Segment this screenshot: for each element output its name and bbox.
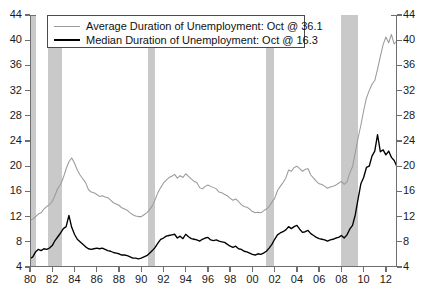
x-tick — [207, 267, 208, 272]
y-tick-right — [397, 166, 402, 167]
x-tick-label: 88 — [108, 274, 130, 285]
chart-legend: Average Duration of Unemployment: Oct @ … — [47, 15, 305, 48]
series-group — [30, 15, 397, 267]
y-tick-label-right: 4 — [403, 261, 425, 272]
x-tick-label: 86 — [86, 274, 108, 285]
y-tick-label-right: 32 — [403, 85, 425, 96]
x-tick-label: 02 — [264, 274, 286, 285]
x-tick — [385, 267, 386, 272]
x-tick-label: 08 — [330, 274, 352, 285]
x-tick-label: 80 — [19, 274, 41, 285]
y-tick-left — [25, 191, 30, 192]
y-tick-right — [397, 266, 402, 267]
x-tick — [252, 267, 253, 272]
x-tick-label: 12 — [375, 274, 397, 285]
y-tick-right — [397, 241, 402, 242]
x-tick — [163, 267, 164, 272]
y-tick-right — [397, 140, 402, 141]
y-tick-label-right: 40 — [403, 34, 425, 45]
y-tick-right — [397, 40, 402, 41]
y-tick-left — [25, 40, 30, 41]
series-line-average — [30, 35, 397, 221]
y-tick-label-left: 32 — [2, 85, 22, 96]
y-tick-label-right: 28 — [403, 110, 425, 121]
y-tick-label-right: 16 — [403, 185, 425, 196]
y-tick-right — [397, 115, 402, 116]
legend-swatch-average-icon — [54, 26, 80, 27]
y-tick-label-left: 12 — [2, 211, 22, 222]
plot-area — [30, 15, 397, 267]
y-tick-label-right: 8 — [403, 236, 425, 247]
y-tick-label-left: 28 — [2, 110, 22, 121]
x-tick — [341, 267, 342, 272]
y-tick-left — [25, 90, 30, 91]
x-tick-label: 06 — [308, 274, 330, 285]
y-tick-label-left: 24 — [2, 135, 22, 146]
legend-swatch-median-icon — [54, 39, 80, 41]
legend-item-average: Average Duration of Unemployment: Oct @ … — [54, 19, 298, 33]
x-tick-label: 82 — [41, 274, 63, 285]
x-tick — [274, 267, 275, 272]
y-tick-label-right: 36 — [403, 59, 425, 70]
y-tick-label-left: 40 — [2, 34, 22, 45]
x-tick-label: 84 — [63, 274, 85, 285]
y-tick-left — [25, 65, 30, 66]
y-tick-right — [397, 14, 402, 15]
y-tick-left — [25, 140, 30, 141]
x-tick — [363, 267, 364, 272]
x-tick — [185, 267, 186, 272]
x-tick — [74, 267, 75, 272]
y-tick-left — [25, 115, 30, 116]
y-tick-label-left: 20 — [2, 160, 22, 171]
x-tick-label: 04 — [286, 274, 308, 285]
y-tick-label-left: 36 — [2, 59, 22, 70]
x-tick-label: 98 — [219, 274, 241, 285]
y-axis-left-top-cap — [30, 15, 36, 16]
legend-item-median: Median Duration of Unemployment: Oct @ 1… — [54, 33, 298, 47]
x-tick-label: 10 — [353, 274, 375, 285]
unemployment-duration-chart: 4488121216162020242428283232363640404444… — [0, 0, 429, 296]
y-tick-label-left: 44 — [2, 9, 22, 20]
x-tick — [118, 267, 119, 272]
x-tick-label: 90 — [130, 274, 152, 285]
x-tick — [318, 267, 319, 272]
y-tick-label-right: 12 — [403, 211, 425, 222]
y-axis-left-line — [30, 15, 31, 267]
y-tick-left — [25, 166, 30, 167]
series-line-median — [30, 135, 397, 259]
y-tick-right — [397, 216, 402, 217]
x-tick-label: 92 — [152, 274, 174, 285]
x-tick-label: 00 — [241, 274, 263, 285]
y-tick-label-left: 4 — [2, 261, 22, 272]
y-tick-left — [25, 14, 30, 15]
x-tick — [29, 267, 30, 272]
legend-label-average: Average Duration of Unemployment: Oct @ … — [86, 20, 323, 33]
x-tick — [52, 267, 53, 272]
x-tick — [141, 267, 142, 272]
y-tick-label-left: 16 — [2, 185, 22, 196]
y-tick-label-right: 24 — [403, 135, 425, 146]
x-tick — [296, 267, 297, 272]
y-tick-left — [25, 216, 30, 217]
x-tick-label: 94 — [175, 274, 197, 285]
y-tick-right — [397, 90, 402, 91]
y-tick-label-left: 8 — [2, 236, 22, 247]
y-tick-left — [25, 241, 30, 242]
x-tick-label: 96 — [197, 274, 219, 285]
x-tick — [96, 267, 97, 272]
y-tick-label-right: 44 — [403, 9, 425, 20]
x-tick — [229, 267, 230, 272]
y-tick-right — [397, 191, 402, 192]
legend-label-median: Median Duration of Unemployment: Oct @ 1… — [86, 34, 318, 47]
y-tick-right — [397, 65, 402, 66]
y-tick-label-right: 20 — [403, 160, 425, 171]
